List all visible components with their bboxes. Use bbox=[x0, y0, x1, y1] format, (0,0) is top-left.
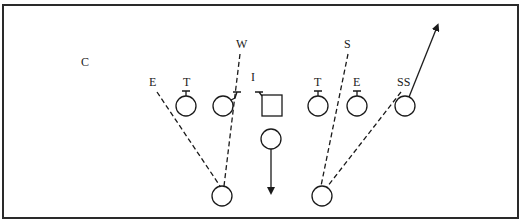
label-s: S bbox=[344, 37, 351, 51]
label-e-left: E bbox=[149, 75, 156, 89]
label-c: C bbox=[81, 55, 89, 69]
play-diagram: C W S E T I T E SS bbox=[0, 0, 521, 222]
label-w: W bbox=[236, 37, 248, 51]
label-t-left: T bbox=[183, 75, 191, 89]
label-ss: SS bbox=[397, 75, 410, 89]
label-t-right: T bbox=[314, 75, 322, 89]
label-e-right: E bbox=[353, 75, 360, 89]
diagram-border bbox=[3, 5, 518, 218]
label-i: I bbox=[251, 70, 255, 84]
